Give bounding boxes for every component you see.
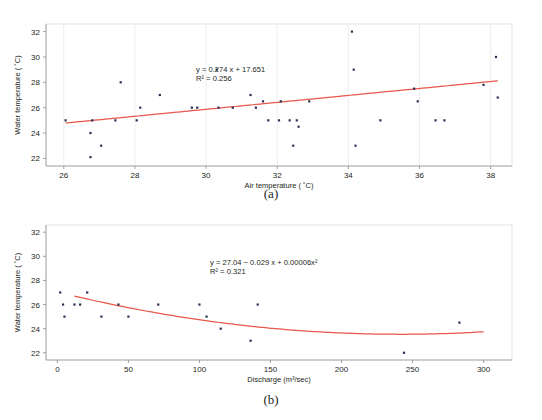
data-point <box>495 56 497 58</box>
data-point <box>64 119 66 121</box>
data-point <box>280 100 282 102</box>
data-point <box>297 126 299 128</box>
data-point <box>262 100 264 102</box>
data-point <box>91 119 93 121</box>
data-point <box>100 316 102 318</box>
chart-panel-b: 050100150200250300222426283032Discharge … <box>0 205 542 420</box>
data-point <box>196 107 198 109</box>
y-tick-label: 26 <box>31 301 40 310</box>
data-point <box>198 303 200 305</box>
x-tick-label: 38 <box>486 171 495 180</box>
data-point <box>413 88 415 90</box>
data-point <box>458 322 460 324</box>
data-point <box>120 81 122 83</box>
data-point <box>59 291 61 293</box>
data-point <box>497 96 499 98</box>
x-tick-label: 30 <box>202 171 211 180</box>
data-point <box>191 107 193 109</box>
x-tick-label: 32 <box>273 171 282 180</box>
data-point <box>62 303 64 305</box>
regression-annotation: y = 0.274 x + 17.651R² = 0.256 <box>196 65 265 83</box>
data-point <box>249 340 251 342</box>
data-point <box>296 119 298 121</box>
data-point <box>73 303 75 305</box>
data-point <box>89 156 91 158</box>
equation-label: y = 0.274 x + 17.651 <box>196 65 265 74</box>
data-point <box>89 132 91 134</box>
chart-panel-a: 26283032343638222426283032Air temperatur… <box>0 0 542 210</box>
x-tick-label: 28 <box>130 171 139 180</box>
data-point <box>127 316 129 318</box>
x-tick-label: 300 <box>477 365 491 374</box>
y-tick-label: 28 <box>31 276 40 285</box>
y-tick-label: 32 <box>31 28 40 37</box>
x-tick-label: 200 <box>335 365 349 374</box>
data-point <box>157 303 159 305</box>
data-point <box>139 107 141 109</box>
caption-b: (b) <box>0 392 542 408</box>
x-axis-title: Discharge (m³/sec) <box>247 375 311 384</box>
data-point <box>379 119 381 121</box>
data-point <box>351 31 353 33</box>
scatter-plot-b: 050100150200250300222426283032Discharge … <box>0 205 542 395</box>
x-tick-label: 100 <box>193 365 207 374</box>
data-point <box>289 119 291 121</box>
plot-frame <box>46 225 512 360</box>
data-point <box>353 69 355 71</box>
x-tick-label: 50 <box>124 365 133 374</box>
y-axis-title: Water temperature ( ˚C) <box>13 55 22 135</box>
data-point <box>403 352 405 354</box>
data-point <box>205 316 207 318</box>
caption-a: (a) <box>0 186 542 202</box>
data-point <box>220 328 222 330</box>
equation-label: y = 27.04 − 0.029 x + 0.00006x² <box>210 258 318 267</box>
data-point <box>257 303 259 305</box>
data-point <box>255 107 257 109</box>
y-tick-label: 26 <box>31 104 40 113</box>
x-tick-label: 34 <box>344 171 353 180</box>
y-tick-label: 30 <box>31 53 40 62</box>
r-squared-label: R² = 0.256 <box>196 74 232 83</box>
x-tick-label: 150 <box>264 365 278 374</box>
data-point <box>136 119 138 121</box>
data-point <box>292 145 294 147</box>
x-tick-label: 250 <box>406 365 420 374</box>
data-point <box>86 291 88 293</box>
x-tick-label: 26 <box>59 171 68 180</box>
data-point <box>278 119 280 121</box>
regression-annotation: y = 27.04 − 0.029 x + 0.00006x²R² = 0.32… <box>210 258 318 276</box>
data-point <box>79 303 81 305</box>
data-point <box>232 107 234 109</box>
x-tick-label: 0 <box>55 365 60 374</box>
y-tick-label: 22 <box>31 349 40 358</box>
y-axis-title: Water temperature ( ˚C) <box>13 252 22 332</box>
y-tick-label: 30 <box>31 252 40 261</box>
data-point <box>117 303 119 305</box>
y-tick-label: 32 <box>31 228 40 237</box>
data-point <box>100 145 102 147</box>
y-tick-label: 24 <box>31 129 40 138</box>
x-tick-label: 36 <box>415 171 424 180</box>
trendline <box>74 296 483 334</box>
data-point <box>434 119 436 121</box>
y-tick-label: 28 <box>31 78 40 87</box>
data-point <box>308 100 310 102</box>
data-point <box>159 94 161 96</box>
y-tick-label: 22 <box>31 154 40 163</box>
data-point <box>482 84 484 86</box>
data-point <box>217 107 219 109</box>
data-point <box>267 119 269 121</box>
figure-container: 26283032343638222426283032Air temperatur… <box>0 0 542 420</box>
data-point <box>249 94 251 96</box>
y-tick-label: 24 <box>31 325 40 334</box>
data-point <box>354 145 356 147</box>
scatter-plot-a: 26283032343638222426283032Air temperatur… <box>0 0 542 210</box>
data-point <box>443 119 445 121</box>
plot-frame <box>46 24 512 166</box>
data-point <box>63 316 65 318</box>
data-point <box>114 119 116 121</box>
data-point <box>417 100 419 102</box>
r-squared-label: R² = 0.321 <box>210 267 246 276</box>
